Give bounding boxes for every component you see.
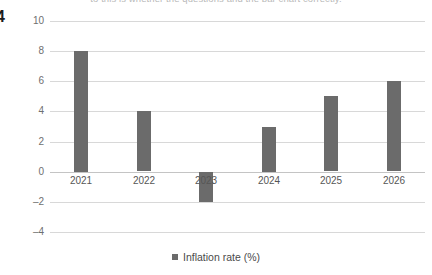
y-tick-label-2: 2: [14, 137, 44, 147]
gridline-6: [50, 81, 425, 82]
y-tick-label-neg2: –2: [14, 197, 44, 207]
legend-swatch-inflation-rate: [172, 254, 178, 260]
gridline-neg4: [50, 232, 425, 233]
gridline-10: [50, 21, 425, 22]
x-tick-label-2026: 2026: [364, 176, 424, 186]
y-tick-label-10: 10: [14, 16, 44, 26]
x-tick-label-2023: 2023: [176, 176, 236, 186]
y-tick-label-8: 8: [14, 46, 44, 56]
x-tick-label-2024: 2024: [239, 176, 299, 186]
bar-chart: 1086420–2–4 202120222023202420252026: [0, 0, 432, 275]
chart-legend: Inflation rate (%): [0, 251, 432, 263]
x-tick-label-2022: 2022: [114, 176, 174, 186]
x-tick-label-2021: 2021: [51, 176, 111, 186]
y-tick-label-4: 4: [14, 106, 44, 116]
gridline-8: [50, 51, 425, 52]
bar-2024: [262, 127, 276, 172]
gridline-4: [50, 111, 425, 112]
x-tick-label-2025: 2025: [301, 176, 361, 186]
y-tick-label-0: 0: [14, 167, 44, 177]
bar-2021: [74, 51, 88, 172]
gridline-2: [50, 142, 425, 143]
legend-label-inflation-rate: Inflation rate (%): [183, 251, 260, 263]
y-tick-label-neg4: –4: [14, 227, 44, 237]
gridline-neg2: [50, 202, 425, 203]
bar-2022: [137, 111, 151, 171]
bar-2025: [324, 96, 338, 171]
y-tick-label-6: 6: [14, 76, 44, 86]
bar-2026: [387, 81, 401, 171]
gridline-0: [50, 172, 425, 173]
